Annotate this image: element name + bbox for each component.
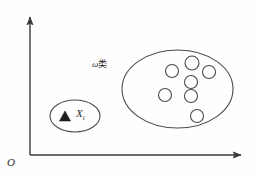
sample-triangle-marker (60, 111, 71, 121)
sample-region-ellipse (50, 100, 100, 132)
cluster-member-circle (185, 76, 198, 89)
class-region-ellipse (122, 50, 233, 128)
cluster-member-circle (203, 66, 216, 79)
figure-canvas: O ω类 Xi (0, 0, 254, 179)
scatter-diagram (0, 0, 254, 179)
class-cluster-group (122, 50, 233, 128)
cluster-member-circle (166, 65, 179, 78)
axes-group (30, 17, 241, 155)
cluster-member-circle (185, 90, 198, 103)
cluster-member-circle (159, 89, 172, 102)
cluster-member-circle (185, 56, 199, 70)
sample-region-group (50, 100, 100, 132)
cluster-member-circle (191, 110, 204, 123)
